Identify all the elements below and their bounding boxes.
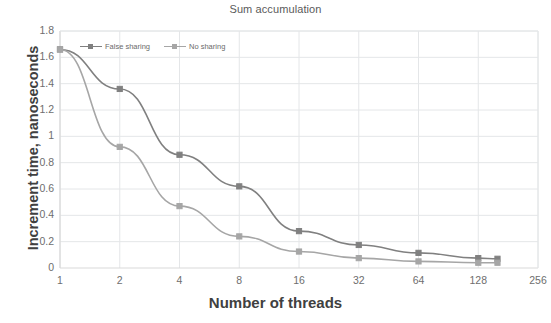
- y-tick-label: 0.2: [20, 235, 54, 247]
- x-tick-label: 4: [160, 274, 200, 286]
- legend-item-false-sharing[interactable]: False sharing: [80, 42, 150, 51]
- x-tick-label: 32: [339, 274, 379, 286]
- data-point-marker: [57, 47, 62, 52]
- x-tick-label: 256: [518, 274, 551, 286]
- legend-marker-false-sharing: [88, 44, 93, 49]
- y-tick-label: 1.2: [20, 103, 54, 115]
- legend-label-false-sharing: False sharing: [104, 42, 150, 51]
- series-line-0: [60, 49, 497, 258]
- chart-container: Sum accumulation Increment time, nanosec…: [0, 0, 551, 323]
- y-tick-label: 1: [20, 129, 54, 141]
- legend-item-no-sharing[interactable]: No sharing: [164, 42, 225, 51]
- data-point-marker: [495, 260, 500, 265]
- data-point-marker: [356, 256, 361, 261]
- y-tick-label: 0: [20, 261, 54, 273]
- data-point-marker: [117, 86, 122, 91]
- data-point-marker: [177, 152, 182, 157]
- y-tick-label: 0.6: [20, 182, 54, 194]
- y-tick-label: 0.4: [20, 208, 54, 220]
- y-tick-label: 0.8: [20, 156, 54, 168]
- legend-marker-no-sharing: [172, 44, 177, 49]
- y-tick-label: 1.8: [20, 24, 54, 36]
- data-point-marker: [356, 242, 361, 247]
- data-point-marker: [296, 229, 301, 234]
- legend-swatch-false-sharing: [80, 43, 102, 51]
- data-series-layer: [57, 47, 500, 266]
- data-point-marker: [117, 144, 122, 149]
- y-tick-label: 1.6: [20, 50, 54, 62]
- data-point-marker: [416, 259, 421, 264]
- data-point-marker: [416, 250, 421, 255]
- x-tick-label: 1: [40, 274, 80, 286]
- data-point-marker: [476, 260, 481, 265]
- data-point-marker: [237, 234, 242, 239]
- y-tick-label: 1.4: [20, 77, 54, 89]
- x-tick-label: 2: [100, 274, 140, 286]
- data-point-marker: [177, 204, 182, 209]
- data-point-marker: [237, 184, 242, 189]
- chart-legend: False sharing No sharing: [80, 42, 225, 51]
- legend-label-no-sharing: No sharing: [188, 42, 225, 51]
- series-line-1: [60, 49, 497, 262]
- x-tick-label: 8: [219, 274, 259, 286]
- data-point-marker: [296, 249, 301, 254]
- x-tick-label: 64: [399, 274, 439, 286]
- x-tick-label: 16: [279, 274, 319, 286]
- legend-swatch-no-sharing: [164, 43, 186, 51]
- x-tick-label: 128: [458, 274, 498, 286]
